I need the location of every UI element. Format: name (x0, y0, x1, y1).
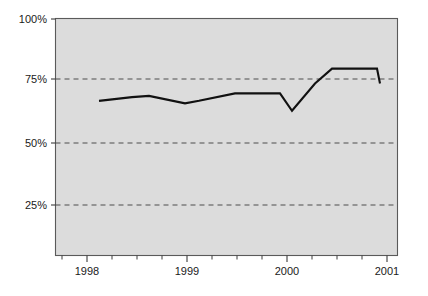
x-tick-label-1999: 1999 (175, 265, 199, 277)
chart-container: 100% 75% 50% 25% 1998 1999 2000 2001 (0, 0, 428, 296)
y-tick-label-25: 25% (25, 199, 47, 211)
y-tick-label-50: 50% (25, 137, 47, 149)
x-tick-label-2000: 2000 (275, 265, 299, 277)
x-tick-label-2001: 2001 (375, 265, 399, 277)
plot-area-background (56, 19, 398, 256)
y-tick-label-100: 100% (19, 13, 47, 25)
y-tick-label-75: 75% (25, 73, 47, 85)
x-tick-label-1998: 1998 (75, 265, 99, 277)
line-chart: 100% 75% 50% 25% 1998 1999 2000 2001 (0, 0, 428, 296)
